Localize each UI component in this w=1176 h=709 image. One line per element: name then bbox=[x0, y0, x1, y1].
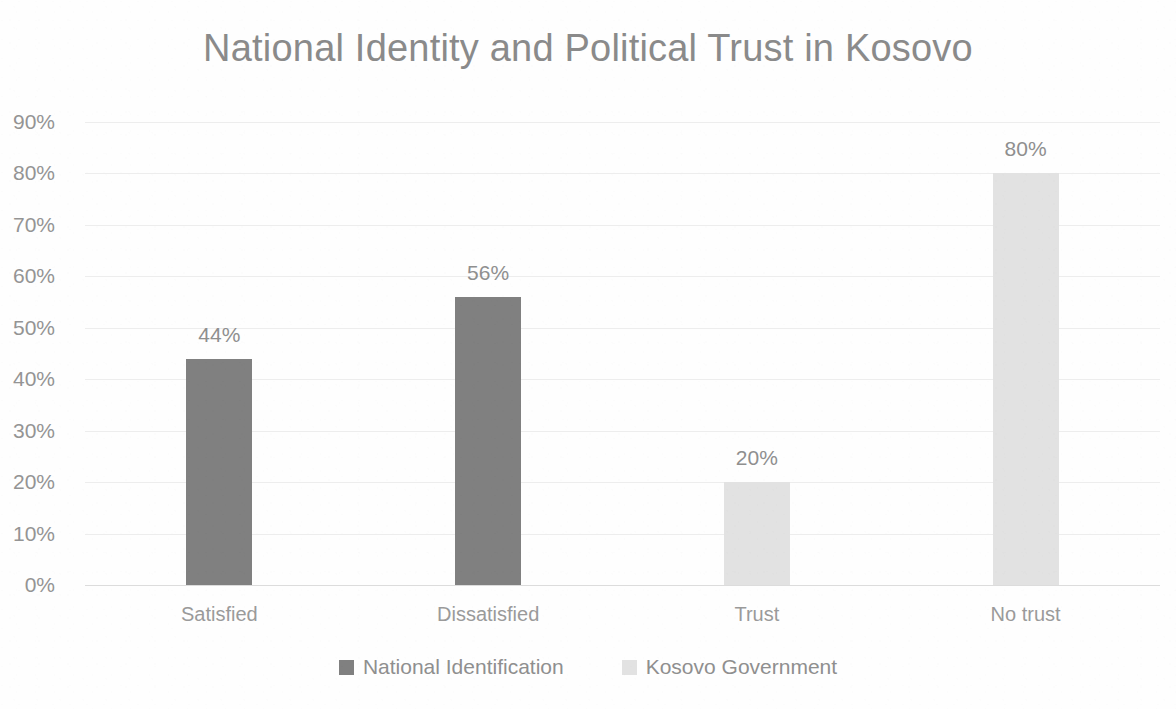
legend-item[interactable]: National Identification bbox=[339, 655, 564, 679]
y-axis-tick-label: 80% bbox=[0, 161, 55, 185]
legend-item[interactable]: Kosovo Government bbox=[622, 655, 837, 679]
x-axis-category-label: Trust bbox=[734, 603, 779, 626]
x-axis-category-label: Satisfied bbox=[181, 603, 258, 626]
bar-value-label: 56% bbox=[467, 261, 509, 285]
y-axis-tick-label: 0% bbox=[0, 573, 55, 597]
legend-swatch-icon bbox=[622, 660, 637, 675]
y-axis-tick-label: 70% bbox=[0, 213, 55, 237]
bar[interactable] bbox=[455, 297, 521, 585]
bar-chart-figure: National Identity and Political Trust in… bbox=[0, 0, 1176, 709]
legend-swatch-icon bbox=[339, 660, 354, 675]
chart-legend: National IdentificationKosovo Government bbox=[0, 655, 1176, 679]
legend-label: National Identification bbox=[363, 655, 564, 679]
y-axis-tick-label: 10% bbox=[0, 522, 55, 546]
y-axis-tick-label: 40% bbox=[0, 367, 55, 391]
bar-slot: 44%Satisfied bbox=[85, 122, 354, 585]
x-axis-category-label: No trust bbox=[991, 603, 1061, 626]
plot-area: 90%80%70%60%50%40%30%20%10%0% 44%Satisfi… bbox=[85, 122, 1160, 585]
bar-slot: 80%No trust bbox=[891, 122, 1160, 585]
y-axis-tick-label: 90% bbox=[0, 110, 55, 134]
bar-value-label: 44% bbox=[198, 323, 240, 347]
bar[interactable] bbox=[186, 359, 252, 585]
bar[interactable] bbox=[724, 482, 790, 585]
bar-value-label: 20% bbox=[736, 446, 778, 470]
bar-value-label: 80% bbox=[1005, 137, 1047, 161]
y-axis-tick-label: 60% bbox=[0, 264, 55, 288]
y-axis-tick-label: 50% bbox=[0, 316, 55, 340]
y-axis-tick-label: 30% bbox=[0, 419, 55, 443]
bar-slot: 56%Dissatisfied bbox=[354, 122, 623, 585]
y-axis-tick-label: 20% bbox=[0, 470, 55, 494]
legend-label: Kosovo Government bbox=[646, 655, 837, 679]
chart-title: National Identity and Political Trust in… bbox=[0, 28, 1176, 70]
bar[interactable] bbox=[993, 173, 1059, 585]
bar-slot: 20%Trust bbox=[623, 122, 892, 585]
x-axis-category-label: Dissatisfied bbox=[437, 603, 539, 626]
gridline bbox=[85, 585, 1160, 586]
